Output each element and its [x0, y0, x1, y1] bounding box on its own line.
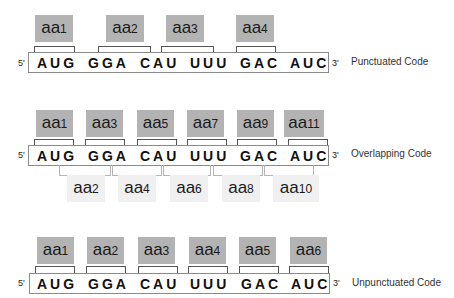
amino-acid-box: aa2	[87, 237, 124, 264]
codon: AUC	[291, 277, 330, 291]
codon: UUU	[190, 277, 229, 291]
amino-acid-box: aa6	[290, 237, 327, 264]
amino-acid-box: aa3	[138, 237, 175, 264]
codon: CAU	[140, 277, 179, 291]
five-prime-label: 5'	[18, 278, 25, 288]
row-caption: Unpunctuated Code	[352, 277, 441, 288]
codon: AUG	[37, 277, 77, 291]
unpunctuated-code-diagram: aa1 aa2 aa3 aa4 aa5 aa6 5' AUG GGA CAU U…	[0, 0, 454, 298]
amino-acid-box: aa1	[37, 237, 74, 264]
three-prime-label: 3'	[333, 278, 340, 288]
codon: GGA	[88, 277, 129, 291]
codon: GAC	[241, 277, 281, 291]
amino-acid-box: aa4	[189, 237, 226, 264]
amino-acid-box: aa5	[239, 237, 276, 264]
